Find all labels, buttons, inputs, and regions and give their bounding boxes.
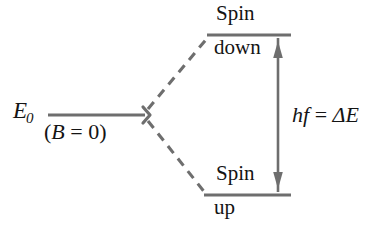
magnetic-field-variable: B bbox=[51, 119, 64, 144]
energy-gap-arrowhead-down bbox=[273, 172, 283, 189]
spin-up-label-line1: Spin bbox=[216, 163, 255, 184]
zero-field-value: = 0) bbox=[65, 119, 107, 144]
photon-energy-operator: = bbox=[309, 102, 332, 127]
spin-down-label-line1: Spin bbox=[216, 3, 255, 24]
energy-gap-arrow bbox=[273, 38, 283, 192]
photon-energy-lhs: hf bbox=[292, 102, 309, 127]
figure-canvas: E0 (B = 0) Spin down Spin up hf = ΔE bbox=[0, 0, 383, 235]
photon-energy-equation: hf = ΔE bbox=[292, 104, 359, 126]
energy-gap-arrowhead-up bbox=[273, 41, 283, 58]
photon-energy-rhs: ΔE bbox=[333, 102, 359, 127]
unsplit-level-symbol-base: E bbox=[13, 98, 27, 123]
spin-up-label-line2: up bbox=[214, 197, 235, 218]
unsplit-level-symbol-subscript: 0 bbox=[26, 110, 34, 126]
branch-line-spin-down bbox=[148, 36, 209, 109]
branch-line-spin-up bbox=[148, 121, 206, 194]
zero-field-condition-label: (B = 0) bbox=[44, 121, 107, 143]
unsplit-level-symbol: E0 bbox=[13, 99, 34, 126]
spin-down-label-line2: down bbox=[214, 37, 261, 58]
